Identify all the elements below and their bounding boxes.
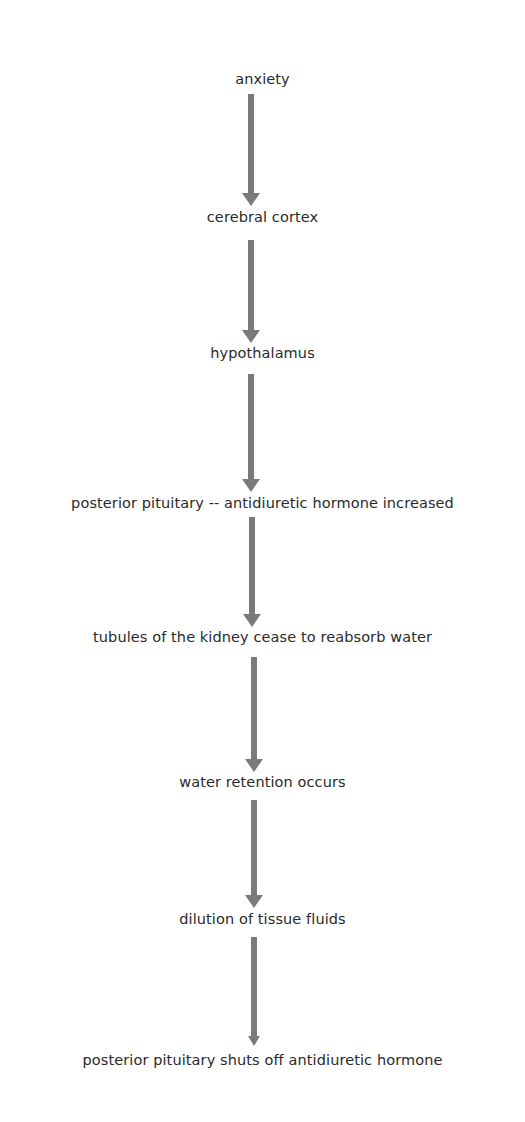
node-anxiety: anxiety — [0, 70, 525, 88]
node-dilution-tissue-fluids: dilution of tissue fluids — [0, 910, 525, 928]
arrow-down-icon — [245, 657, 263, 772]
node-water-retention: water retention occurs — [0, 773, 525, 791]
node-posterior-pituitary-shuts-off: posterior pituitary shuts off antidiuret… — [0, 1051, 525, 1069]
arrow-down-icon — [242, 94, 260, 206]
node-kidney-tubules: tubules of the kidney cease to reabsorb … — [0, 628, 525, 646]
arrow-down-icon — [242, 240, 260, 343]
node-hypothalamus: hypothalamus — [0, 344, 525, 362]
arrow-down-icon — [245, 800, 263, 908]
arrow-down-icon — [242, 374, 260, 492]
arrow-down-icon — [243, 517, 261, 627]
node-cerebral-cortex: cerebral cortex — [0, 208, 525, 226]
arrow-down-icon — [245, 937, 263, 1047]
node-posterior-pituitary-adh-increased: posterior pituitary -- antidiuretic horm… — [0, 494, 525, 512]
